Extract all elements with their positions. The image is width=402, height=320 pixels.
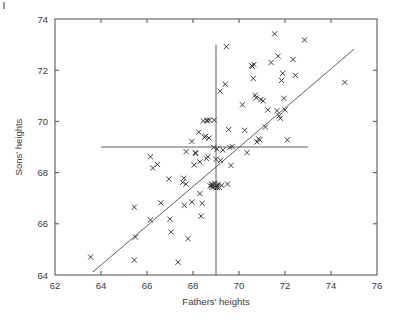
data-point <box>279 78 284 83</box>
data-point <box>197 191 202 196</box>
x-tick-label-64: 64 <box>96 280 107 291</box>
data-point <box>197 159 202 164</box>
data-point <box>148 217 153 222</box>
data-point <box>261 98 266 103</box>
data-point <box>182 203 187 208</box>
x-axis-tick-labels: 6264666870727476 <box>50 280 383 291</box>
data-point <box>220 147 225 152</box>
y-tick-label-72: 72 <box>37 65 48 76</box>
data-point <box>281 96 286 101</box>
data-point <box>290 57 295 62</box>
data-point <box>265 107 270 112</box>
data-point <box>132 205 137 210</box>
data-point <box>132 258 137 263</box>
data-point <box>148 154 153 159</box>
x-tick-label-62: 62 <box>50 280 61 291</box>
data-point <box>205 154 210 159</box>
data-point <box>88 254 93 259</box>
data-point <box>185 236 190 241</box>
data-point <box>158 200 163 205</box>
y-tick-label-68: 68 <box>37 167 48 178</box>
x-tick-label-72: 72 <box>280 280 291 291</box>
y-tick-label-66: 66 <box>37 218 48 229</box>
data-point <box>175 260 180 265</box>
data-point <box>269 60 274 65</box>
x-tick-label-74: 74 <box>326 280 337 291</box>
scatter-plot-canvas: 6264666870727476 646668707274 Fathers' h… <box>0 0 402 320</box>
data-point <box>155 162 160 167</box>
scatter-plot-figure: 6264666870727476 646668707274 Fathers' h… <box>0 0 402 320</box>
data-point <box>285 137 290 142</box>
data-point <box>276 54 281 59</box>
data-point <box>181 176 186 181</box>
x-tick-label-66: 66 <box>142 280 153 291</box>
data-point <box>226 127 231 132</box>
data-point <box>244 150 249 155</box>
data-point <box>242 128 247 133</box>
data-point <box>200 201 205 206</box>
y-axis-title: Sons' heights <box>13 118 24 175</box>
data-point <box>225 182 230 187</box>
data-point <box>198 214 203 219</box>
data-point <box>218 158 223 163</box>
data-point <box>189 139 194 144</box>
data-point <box>166 176 171 181</box>
data-point <box>342 80 347 85</box>
y-tick-label-74: 74 <box>37 14 48 25</box>
x-tick-label-68: 68 <box>188 280 199 291</box>
data-point <box>196 130 201 135</box>
y-tick-label-64: 64 <box>37 270 48 281</box>
data-point <box>223 82 228 87</box>
x-axis-title: Fathers' heights <box>182 296 250 307</box>
data-point <box>228 163 233 168</box>
data-point <box>169 229 174 234</box>
data-point <box>251 76 256 81</box>
data-point <box>189 199 194 204</box>
data-point <box>274 108 279 113</box>
data-point <box>167 217 172 222</box>
data-point <box>218 89 223 94</box>
reference-lines <box>93 45 354 275</box>
y-tick-label-70: 70 <box>37 116 48 127</box>
data-point <box>302 37 307 42</box>
data-point <box>184 149 189 154</box>
data-point <box>150 165 155 170</box>
x-tick-label-76: 76 <box>372 280 383 291</box>
y-axis-tick-labels: 646668707274 <box>37 14 48 281</box>
data-point <box>280 71 285 76</box>
data-point <box>240 102 245 107</box>
x-tick-label-70: 70 <box>234 280 245 291</box>
data-point <box>224 44 229 49</box>
data-point <box>293 73 298 78</box>
data-points <box>88 31 347 265</box>
data-point <box>272 31 277 36</box>
data-point <box>192 162 197 167</box>
